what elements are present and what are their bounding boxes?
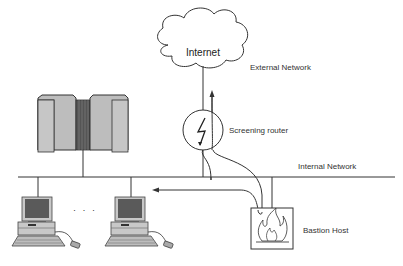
workstations-ellipsis: · · ·	[73, 205, 97, 215]
internal-arrow	[152, 188, 258, 211]
bastion-host-label: Bastion Host	[303, 226, 348, 235]
workstation-icon	[12, 197, 80, 249]
screening-router-icon	[183, 110, 223, 150]
server-icon	[38, 95, 128, 152]
bastion-host-icon	[251, 208, 293, 249]
internal-network-label: Internal Network	[298, 162, 356, 171]
screening-router-label: Screening router	[229, 126, 288, 135]
internet-cloud-icon	[158, 8, 248, 68]
workstation-icon	[105, 197, 173, 249]
internet-label: Internet	[186, 47, 220, 58]
external-network-label: External Network	[250, 63, 311, 72]
